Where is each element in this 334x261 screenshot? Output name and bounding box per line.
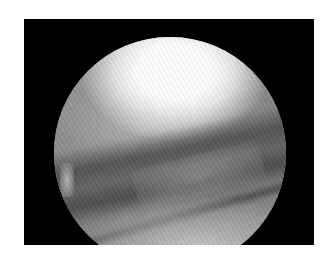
image-description: Grayscale circular endoscopic view insid… (0, 0, 1, 1)
endoscope-frame (24, 19, 314, 245)
endoscope-view (54, 37, 286, 245)
lens-vignette (54, 37, 286, 245)
